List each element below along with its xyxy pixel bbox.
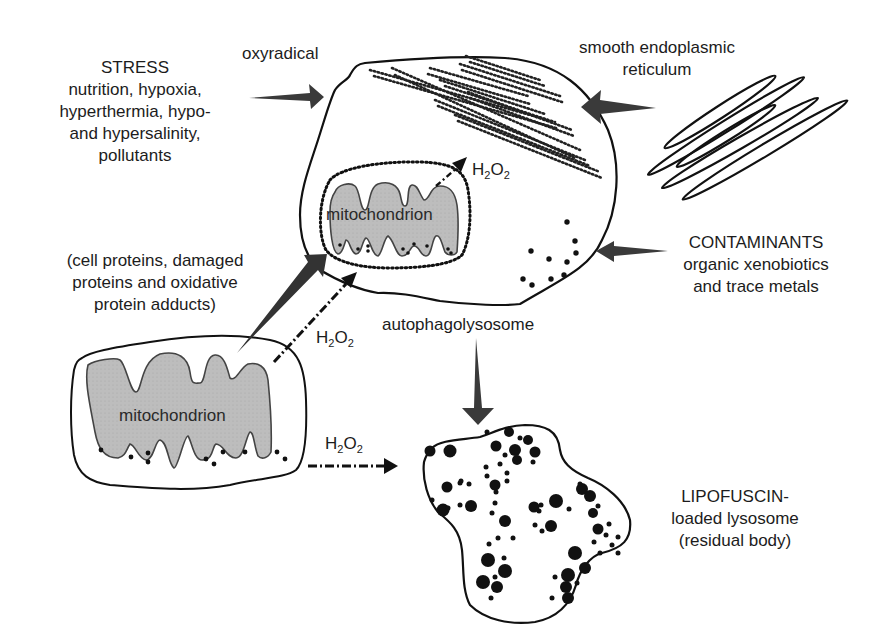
ser-arrow — [581, 90, 656, 124]
h2o2-label-bottom: H2O2 — [325, 434, 363, 455]
ser-label: smooth endoplasmic reticulum — [552, 37, 762, 81]
stress-line-2: hyperthermia, hypo- — [40, 101, 230, 123]
stress-line-3: and hypersalinity, — [40, 123, 230, 145]
outer-mitochondrion-label: mitochondrion — [119, 406, 226, 426]
lipofuscin-lysosome — [424, 425, 631, 623]
stress-line-1: nutrition, hypoxia, — [40, 79, 230, 101]
ser-line-1: smooth endoplasmic — [552, 37, 762, 59]
stress-line-4: pollutants — [40, 145, 230, 167]
smooth-endoplasmic-reticulum — [645, 71, 850, 205]
contaminants-line-2: and trace metals — [660, 276, 852, 298]
h2o2-sub-2: 2 — [504, 169, 510, 181]
proteins-line-1: (cell proteins, damaged — [40, 250, 270, 272]
h2o2-label-middle: H2O2 — [316, 328, 354, 349]
lipofuscin-label: LIPOFUSCIN- loaded lysosome (residual bo… — [650, 486, 820, 552]
h2o2-sub-2: 2 — [357, 443, 363, 455]
to-lysosome-arrow — [462, 338, 494, 425]
h2o2-h: H — [325, 434, 337, 453]
h2o2-arrow-inner — [436, 157, 467, 186]
lipofuscin-line-3: (residual body) — [650, 530, 820, 552]
autophagolysosome-cell — [300, 56, 617, 305]
lipofuscin-granules — [425, 427, 621, 604]
stress-label: STRESS nutrition, hypoxia, hyperthermia,… — [40, 57, 230, 167]
lipofuscin-line-1: LIPOFUSCIN- — [650, 486, 820, 508]
inner-mitochondrion-label: mitochondrion — [326, 205, 433, 225]
proteins-label: (cell proteins, damaged proteins and oxi… — [40, 250, 270, 316]
ser-line-2: reticulum — [552, 59, 762, 81]
h2o2-o: O — [334, 328, 347, 347]
h2o2-h: H — [316, 328, 328, 347]
proteins-line-2: proteins and oxidative — [40, 272, 270, 294]
contaminants-arrow — [596, 241, 668, 262]
h2o2-arrow-to-lysosome — [308, 458, 398, 474]
stress-arrow — [249, 84, 324, 109]
lipofuscin-line-2: loaded lysosome — [650, 508, 820, 530]
h2o2-sub-2: 2 — [348, 337, 354, 349]
autophagolysosome-label: autophagolysosome — [382, 314, 534, 336]
contaminants-title: CONTAMINANTS — [660, 232, 852, 254]
contaminant-particles — [520, 219, 578, 287]
contaminants-line-1: organic xenobiotics — [660, 254, 852, 276]
autophagy-lipofuscin-diagram: STRESS nutrition, hypoxia, hyperthermia,… — [0, 0, 873, 636]
stress-title: STRESS — [40, 57, 230, 79]
proteins-line-3: protein adducts) — [40, 294, 270, 316]
contaminants-label: CONTAMINANTS organic xenobiotics and tra… — [660, 232, 852, 298]
h2o2-o: O — [343, 434, 356, 453]
h2o2-h: H — [472, 160, 484, 179]
h2o2-o: O — [490, 160, 503, 179]
h2o2-label-inner: H2O2 — [472, 160, 510, 181]
oxyradical-label: oxyradical — [242, 43, 319, 65]
